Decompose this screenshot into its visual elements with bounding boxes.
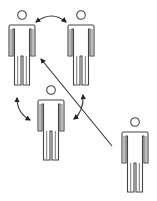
person-outsider-icon <box>122 118 148 192</box>
person-top-left-icon <box>9 11 35 85</box>
group-interaction-diagram <box>0 0 157 201</box>
arrow-top-pair-icon <box>36 16 66 22</box>
person-top-right-icon <box>68 11 94 85</box>
arrow-right-pair-icon <box>74 95 83 119</box>
arrow-left-pair-icon <box>17 98 30 120</box>
person-middle-icon <box>38 86 64 160</box>
